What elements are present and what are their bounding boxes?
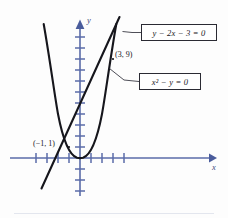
equation-box-parabola: x² − y = 0 bbox=[139, 73, 201, 90]
leader-line-to-parabola-eq bbox=[110, 69, 140, 82]
x-axis-label: x bbox=[212, 163, 216, 172]
y-axis-label: y bbox=[87, 16, 91, 25]
equation-parabola-text: x² − y = 0 bbox=[152, 77, 188, 87]
point-label-3-9: (3, 9) bbox=[115, 51, 132, 59]
y-axis-arrow bbox=[76, 20, 85, 30]
axes-group bbox=[10, 22, 210, 196]
leader-line-to-line-eq bbox=[123, 32, 142, 33]
graph-figure: y x (3, 9) (−1, 1) y − 2x − 3 = 0 x² − y… bbox=[0, 0, 228, 218]
dot-point-neg1-1 bbox=[68, 146, 70, 148]
dot-point-3-9 bbox=[112, 58, 114, 60]
equation-box-line: y − 2x − 3 = 0 bbox=[141, 24, 217, 41]
page-rule-artifact bbox=[14, 213, 214, 214]
point-label-neg1-1: (−1, 1) bbox=[33, 140, 55, 148]
equation-line-text: y − 2x − 3 = 0 bbox=[152, 28, 205, 38]
intersection-dots bbox=[68, 58, 114, 148]
